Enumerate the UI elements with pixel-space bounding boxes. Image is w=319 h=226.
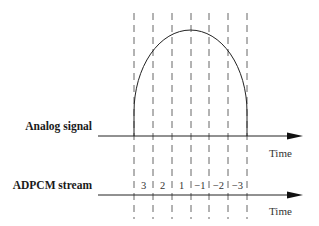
adpcm-stream-label: ADPCM stream xyxy=(13,179,93,191)
adpcm-time-label: Time xyxy=(269,205,292,217)
adpcm-value: −1 xyxy=(194,180,205,191)
analog-axis-arrowhead-icon xyxy=(287,133,303,140)
adpcm-value: 1 xyxy=(179,180,184,191)
adpcm-axis-arrowhead-icon xyxy=(287,192,303,199)
adpcm-diagram: Analog signal Time ADPCM stream Time 3 2… xyxy=(0,0,319,226)
adpcm-value: −2 xyxy=(213,180,224,191)
analog-time-label: Time xyxy=(269,147,292,159)
analog-signal-curve xyxy=(134,30,247,136)
analog-signal-label: Analog signal xyxy=(25,120,92,133)
sample-lines xyxy=(134,13,247,219)
adpcm-value: 3 xyxy=(141,180,146,191)
adpcm-value: −3 xyxy=(232,180,243,191)
adpcm-value: 2 xyxy=(160,180,165,191)
